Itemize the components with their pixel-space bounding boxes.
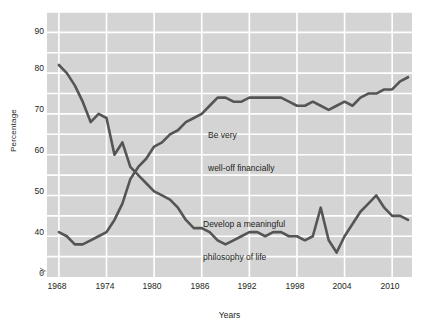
x-tick-label-1986: 1986 <box>177 281 223 291</box>
y-tick-label-80: 80 <box>14 63 44 73</box>
annotation-philosophy-line2: philosophy of life <box>203 252 285 263</box>
y-tick-label-90: 90 <box>14 26 44 36</box>
x-tick-label-1974: 1974 <box>82 281 128 291</box>
x-tick-label-1980: 1980 <box>129 281 175 291</box>
annotation-well-off-line2: well-off financially <box>208 163 274 174</box>
x-tick-label-1968: 1968 <box>34 281 80 291</box>
x-tick-label-2010: 2010 <box>367 281 413 291</box>
annotation-philosophy-line1: Develop a meaningful <box>203 219 285 230</box>
x-tick-label-1998: 1998 <box>272 281 318 291</box>
annotation-philosophy: Develop a meaningful philosophy of life <box>203 197 285 285</box>
annotation-well-off: Be very well-off financially <box>208 108 274 196</box>
y-tick-label-60: 60 <box>14 145 44 155</box>
annotation-well-off-line1: Be very <box>208 130 274 141</box>
y-axis-title: Percentage <box>9 91 18 171</box>
y-tick-label-50: 50 <box>14 186 44 196</box>
chart-figure: Percentage 90 80 70 60 50 40 0 Be very w… <box>0 0 422 326</box>
y-tick-label-70: 70 <box>14 104 44 114</box>
x-tick-label-2004: 2004 <box>319 281 365 291</box>
y-tick-label-40: 40 <box>14 227 44 237</box>
x-tick-label-1992: 1992 <box>224 281 270 291</box>
x-axis-title: Years <box>47 310 412 320</box>
